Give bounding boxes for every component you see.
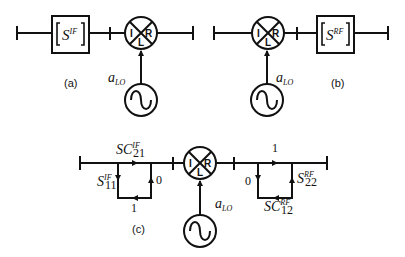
- s11-subscript: 11: [105, 178, 117, 192]
- bracket-left: [322, 23, 325, 45]
- subfigure-b: I R L SRF aLO (b): [214, 16, 388, 116]
- value-one: 1: [272, 141, 278, 155]
- port-i: I: [189, 158, 192, 169]
- sine-wave-icon: [131, 91, 151, 109]
- s-if-label: SIF: [62, 27, 77, 43]
- caption-a: (a): [64, 77, 77, 89]
- rf-signal-flow-graph: 1 0 SRF 22 SCRF 12: [245, 141, 317, 217]
- if-signal-flow-graph: SCIF 21 SIF 11 0 1: [97, 141, 162, 215]
- subfigure-a: SIF I R L aLO (a): [17, 16, 193, 116]
- if-flow-loop: [118, 163, 151, 198]
- caption-b: (b): [331, 77, 344, 89]
- port-l: L: [197, 167, 203, 178]
- sine-wave-icon: [190, 222, 210, 240]
- s22-subscript: 22: [305, 175, 317, 189]
- arrow-down-icon: [255, 175, 261, 181]
- value-zero: 0: [245, 174, 251, 188]
- lo-label-b: aLO: [276, 70, 293, 87]
- bracket-right: [81, 23, 84, 45]
- lo-label-a: aLO: [108, 70, 125, 87]
- arrow-up-icon: [148, 177, 154, 183]
- port-l: L: [265, 37, 271, 48]
- value-zero: 0: [156, 173, 162, 187]
- port-r: R: [145, 28, 153, 39]
- sine-wave-icon: [257, 91, 277, 109]
- bracket-right: [346, 23, 349, 45]
- subfigure-c: SCIF 21 SIF 11 0 1 I R L 1 0 SRF 22 SCR: [80, 141, 327, 247]
- arrow-up-icon: [289, 177, 295, 183]
- sc21-subscript: 21: [133, 146, 145, 160]
- lo-label-c: aLO: [215, 196, 232, 213]
- bracket-left: [57, 23, 60, 45]
- sc12-subscript: 12: [281, 203, 293, 217]
- port-r: R: [204, 158, 212, 169]
- port-r: R: [272, 28, 280, 39]
- caption-c: (c): [132, 223, 145, 235]
- value-one: 1: [131, 201, 137, 215]
- arrow-right-icon: [132, 160, 138, 166]
- port-l: L: [138, 37, 144, 48]
- port-i: I: [257, 28, 260, 39]
- port-i: I: [130, 28, 133, 39]
- rf-flow-loop: [258, 163, 292, 198]
- s-rf-label: SRF: [326, 27, 343, 43]
- arrow-right-icon: [272, 160, 278, 166]
